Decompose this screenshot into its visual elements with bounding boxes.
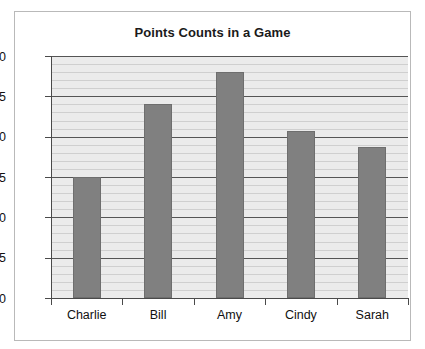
y-axis-label: 5 — [0, 251, 6, 265]
y-axis-label-wrap: 5 — [15, 258, 51, 259]
bar — [358, 147, 386, 298]
x-axis-tick — [51, 299, 52, 305]
chart-title: Points Counts in a Game — [15, 25, 410, 40]
x-axis-label: Sarah — [356, 308, 389, 322]
x-axis-label: Cindy — [285, 308, 317, 322]
bar — [73, 177, 101, 298]
y-axis-label-wrap: 0 — [15, 298, 51, 299]
bar — [287, 131, 315, 298]
x-axis-label: Bill — [150, 308, 167, 322]
x-axis-line — [51, 298, 409, 299]
y-axis-label-wrap: 15 — [15, 177, 51, 178]
plot-area — [51, 56, 408, 298]
x-axis-label: Amy — [217, 308, 242, 322]
x-axis-tick — [122, 299, 123, 305]
y-axis-label: 20 — [0, 130, 6, 144]
y-axis-label-wrap: 10 — [15, 217, 51, 218]
gridline-major — [51, 56, 408, 57]
y-axis-label: 0 — [0, 292, 6, 306]
y-axis-label: 25 — [0, 90, 6, 104]
bar — [216, 72, 244, 298]
chart-frame: Points Counts in a Game 051015202530 Cha… — [14, 11, 411, 341]
y-axis-label-wrap: 30 — [15, 56, 51, 57]
x-axis-tick — [194, 299, 195, 305]
x-axis-label: Charlie — [67, 308, 107, 322]
x-axis-tick — [265, 299, 266, 305]
y-axis-label: 15 — [0, 171, 6, 185]
bar — [144, 104, 172, 298]
y-axis-label-wrap: 25 — [15, 96, 51, 97]
y-axis-label-wrap: 20 — [15, 137, 51, 138]
y-axis-label: 10 — [0, 211, 6, 225]
x-axis-tick — [337, 299, 338, 305]
x-axis-tick — [408, 299, 409, 305]
y-axis-label: 30 — [0, 50, 6, 64]
